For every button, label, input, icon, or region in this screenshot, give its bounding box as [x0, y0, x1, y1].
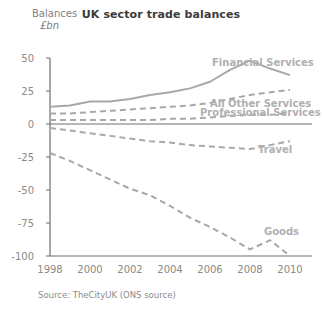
y-tick-label: 0: [28, 119, 34, 130]
chart-plot-area: 50250-25-50-75-100 199820002002200420062…: [0, 0, 322, 312]
y-tick-label: 25: [21, 86, 34, 97]
series-label-financial-services: Financial Services: [212, 57, 314, 68]
data-series-group: [50, 61, 290, 256]
series-line-travel: [50, 128, 290, 149]
series-label-group: Financial ServicesAll Other ServicesProf…: [200, 57, 321, 237]
x-tick-label: 1998: [37, 264, 62, 275]
chart-figure: Balances £bn UK sector trade balances 50…: [0, 0, 322, 312]
x-tick-label: 2000: [77, 264, 102, 275]
x-tick-label: 2010: [277, 264, 302, 275]
y-tick-label: -75: [18, 218, 34, 229]
x-tick-label: 2004: [157, 264, 182, 275]
x-tick-label: 2006: [197, 264, 222, 275]
y-tick-label: -50: [18, 185, 34, 196]
x-axis-ticks: 1998200020022004200620082010: [37, 264, 302, 275]
source-note: Source: TheCityUK (ONS source): [38, 290, 176, 300]
y-tick-label: 50: [21, 53, 34, 64]
y-tick-label: -25: [18, 152, 34, 163]
series-label-professional-services: Professional Services: [200, 107, 321, 118]
x-tick-label: 2008: [237, 264, 262, 275]
series-label-travel: Travel: [258, 144, 292, 155]
series-line-goods: [50, 153, 290, 256]
x-tick-label: 2002: [117, 264, 142, 275]
y-axis-ticks: 50250-25-50-75-100: [11, 53, 50, 262]
series-label-goods: Goods: [264, 226, 299, 237]
y-tick-label: -100: [11, 251, 34, 262]
